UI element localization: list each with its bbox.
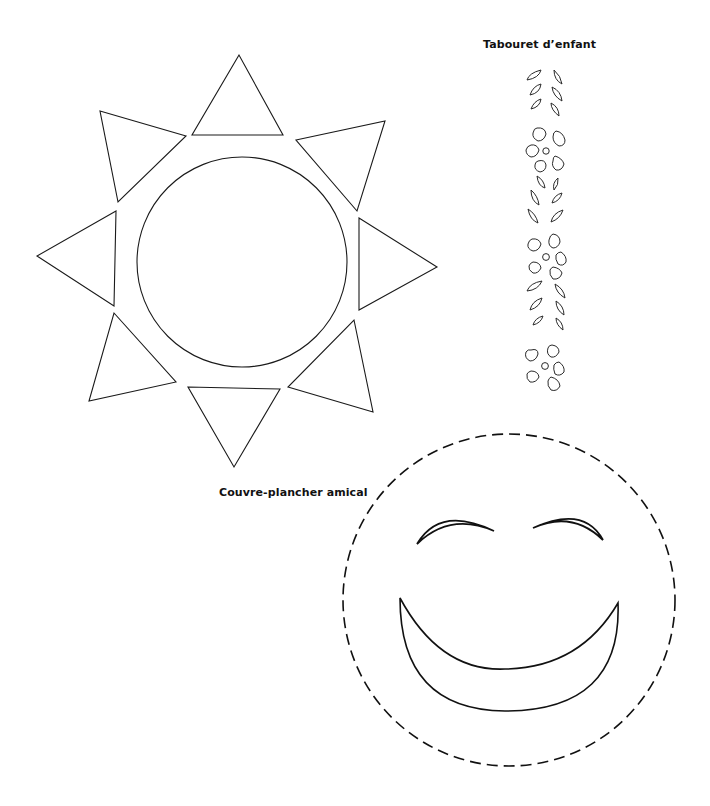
sun-ray-triangle <box>192 55 283 135</box>
template-canvas <box>0 0 710 806</box>
sun-center-circle <box>137 157 347 367</box>
sun-pattern <box>37 55 437 467</box>
mouth <box>400 598 618 711</box>
leaf-group-1 <box>527 70 562 116</box>
right-eye <box>533 519 603 540</box>
sun-ray-triangle <box>359 218 437 310</box>
sun-ray-triangle <box>188 387 280 467</box>
smiley-rug-pattern <box>343 434 675 766</box>
sun-ray-triangle <box>296 121 385 211</box>
leaf-group-2 <box>528 176 563 223</box>
flower-1 <box>526 128 565 172</box>
sun-ray-triangle <box>37 211 116 306</box>
sun-rays <box>37 55 437 467</box>
rug-title: Couvre-plancher amical <box>219 486 368 499</box>
sun-ray-triangle <box>288 320 373 412</box>
sun-ray-triangle <box>89 313 176 401</box>
left-eye <box>417 521 494 544</box>
flower-3 <box>526 345 565 391</box>
stool-title: Tabouret d’enfant <box>483 38 596 51</box>
leaf-group-3 <box>527 281 565 330</box>
rug-dashed-outline <box>343 434 675 766</box>
stool-leaf-flower-pattern <box>526 70 567 391</box>
sun-ray-triangle <box>100 111 186 202</box>
flower-2 <box>528 234 566 279</box>
